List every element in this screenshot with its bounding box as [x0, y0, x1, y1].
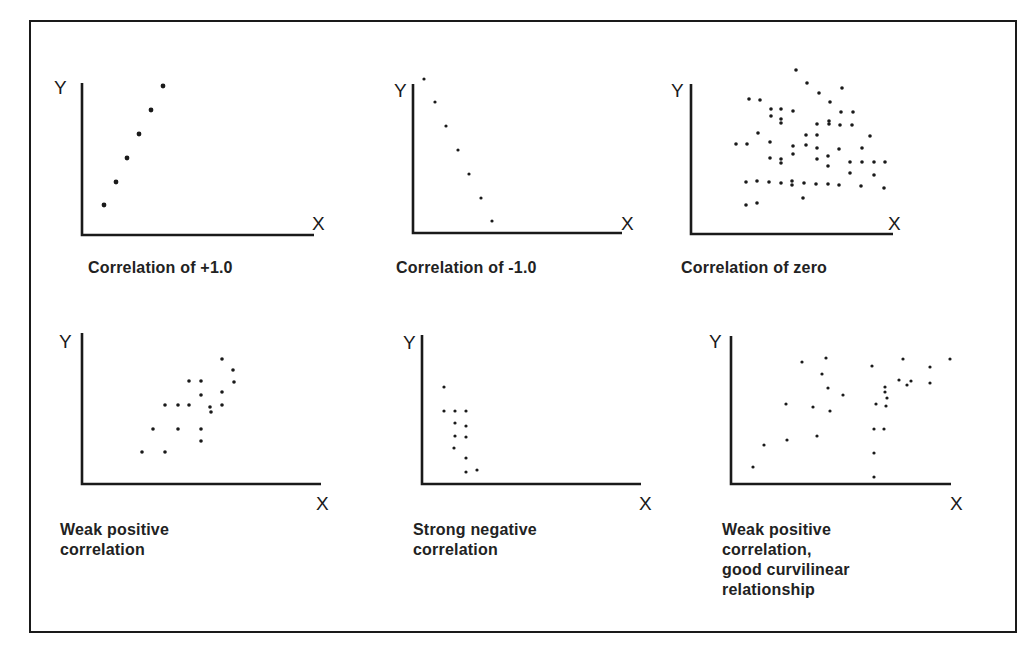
data-point	[909, 379, 912, 382]
data-point	[839, 110, 843, 114]
data-point	[467, 172, 470, 175]
data-point	[820, 372, 823, 375]
data-point	[874, 402, 877, 405]
data-point	[220, 357, 224, 361]
data-point	[163, 403, 167, 407]
data-point	[872, 451, 875, 454]
data-point	[479, 196, 482, 199]
data-point	[779, 117, 783, 121]
data-point	[814, 182, 818, 186]
data-point	[149, 108, 154, 113]
data-point	[804, 133, 808, 137]
panel-4-y-label: Y	[59, 332, 72, 351]
panel-3-y-label: Y	[671, 81, 684, 100]
data-point	[804, 143, 808, 147]
data-point	[137, 132, 142, 137]
data-point	[872, 475, 875, 478]
data-point	[779, 107, 783, 111]
axes-lines	[82, 333, 321, 484]
data-point	[453, 409, 456, 412]
data-point	[884, 404, 887, 407]
data-point	[837, 183, 841, 187]
panel-4-caption: Weak positive correlation	[60, 520, 169, 560]
data-point	[794, 68, 798, 72]
data-point	[801, 196, 805, 200]
data-point	[928, 365, 931, 368]
axes-lines	[413, 84, 622, 233]
data-point	[199, 379, 203, 383]
data-point	[837, 147, 841, 151]
data-point	[453, 421, 456, 424]
data-point	[784, 402, 787, 405]
data-point	[948, 357, 951, 360]
data-point	[176, 403, 180, 407]
data-point	[882, 186, 886, 190]
data-point	[769, 107, 773, 111]
data-point	[444, 124, 447, 127]
scatter-panel-5	[422, 335, 641, 484]
data-point	[779, 157, 783, 161]
panel-3-caption: Correlation of zero	[681, 258, 827, 278]
data-point	[442, 409, 445, 412]
data-point	[220, 390, 224, 394]
data-point	[848, 160, 852, 164]
axes-lines	[691, 84, 893, 234]
data-point	[850, 123, 854, 127]
data-point	[758, 98, 762, 102]
data-point	[442, 385, 445, 388]
data-point	[897, 378, 900, 381]
scatter-panel-3	[691, 68, 893, 234]
data-point	[827, 122, 831, 126]
data-point	[452, 446, 455, 449]
data-point	[464, 409, 467, 412]
data-point	[464, 456, 467, 459]
data-point	[199, 393, 203, 397]
data-point	[826, 154, 830, 158]
panel-6-y-label: Y	[709, 332, 722, 351]
panel-4-x-label: X	[316, 494, 329, 513]
data-point	[734, 142, 738, 146]
data-point	[768, 140, 772, 144]
data-point	[751, 465, 754, 468]
data-point	[744, 203, 748, 207]
data-point	[422, 77, 425, 80]
data-point	[762, 443, 765, 446]
data-point	[885, 396, 888, 399]
data-point	[815, 122, 819, 126]
data-point	[779, 121, 783, 125]
data-point	[199, 439, 203, 443]
data-point	[883, 160, 887, 164]
data-point	[851, 110, 855, 114]
data-point	[785, 438, 788, 441]
data-point	[790, 179, 794, 183]
panel-2-caption: Correlation of -1.0	[396, 258, 537, 278]
data-point	[860, 160, 864, 164]
panel-5-x-label: X	[639, 494, 652, 513]
data-point	[791, 144, 795, 148]
data-point	[475, 468, 478, 471]
data-point	[859, 184, 863, 188]
axes-lines	[82, 83, 314, 235]
data-point	[433, 100, 436, 103]
data-point	[905, 383, 908, 386]
data-point	[768, 156, 772, 160]
data-point	[811, 405, 814, 408]
scatter-panel-6	[731, 336, 952, 484]
data-point	[464, 435, 467, 438]
panel-6-caption: Weak positive correlation, good curvilin…	[722, 520, 850, 600]
data-point	[209, 410, 213, 414]
data-point	[744, 180, 748, 184]
data-point	[805, 81, 809, 85]
data-point	[232, 380, 236, 384]
data-point	[779, 181, 783, 185]
data-point	[872, 427, 875, 430]
data-point	[102, 203, 107, 208]
panel-1-x-label: X	[312, 214, 325, 233]
data-point	[790, 183, 794, 187]
data-point	[490, 219, 493, 222]
data-point	[464, 424, 467, 427]
data-point	[872, 173, 876, 177]
data-point	[848, 171, 852, 175]
data-point	[453, 434, 456, 437]
data-point	[828, 100, 832, 104]
